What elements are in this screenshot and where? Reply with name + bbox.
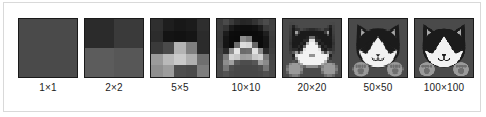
resolution-tile-1: 1×1 — [18, 18, 78, 78]
cat-image-canvas-5 — [151, 19, 209, 77]
cat-image-canvas-10 — [217, 19, 275, 77]
cat-image-canvas-1 — [19, 19, 77, 77]
resolution-tile-10: 10×10 — [216, 18, 276, 78]
tile-image-20 — [282, 18, 342, 78]
tile-image-100 — [414, 18, 474, 78]
cat-image-canvas-20 — [283, 19, 341, 77]
tile-image-10 — [216, 18, 276, 78]
tile-image-50 — [348, 18, 408, 78]
resolution-tile-strip: 1×12×25×510×1020×2050×50100×100 — [4, 3, 480, 111]
tile-image-1 — [18, 18, 78, 78]
resolution-tile-100: 100×100 — [414, 18, 474, 78]
cat-image-canvas-50 — [349, 19, 407, 77]
cat-image-canvas-100 — [415, 19, 473, 77]
figure-frame: 1×12×25×510×1020×2050×50100×100 — [3, 2, 481, 112]
resolution-tile-20: 20×20 — [282, 18, 342, 78]
tile-image-5 — [150, 18, 210, 78]
resolution-tile-2: 2×2 — [84, 18, 144, 78]
cat-image-canvas-2 — [85, 19, 143, 77]
resolution-tile-5: 5×5 — [150, 18, 210, 78]
tile-label-100: 100×100 — [402, 82, 486, 93]
tile-image-2 — [84, 18, 144, 78]
resolution-tile-50: 50×50 — [348, 18, 408, 78]
